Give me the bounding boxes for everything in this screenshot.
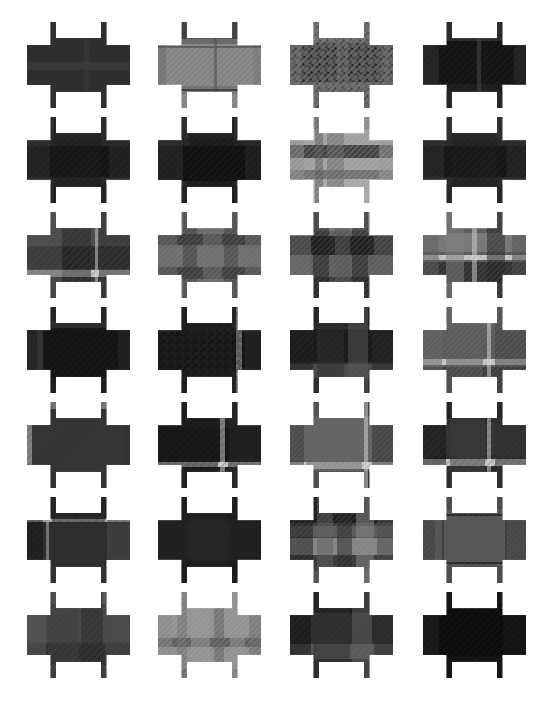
puzzle-tile (27, 307, 130, 393)
puzzle-tile (27, 402, 130, 488)
puzzle-tile (27, 117, 130, 203)
puzzle-tile (423, 402, 526, 488)
puzzle-tile (290, 22, 393, 108)
puzzle-tile (158, 22, 261, 108)
puzzle-tile (423, 307, 526, 393)
puzzle-tile (423, 497, 526, 583)
puzzle-tile (158, 212, 261, 298)
puzzle-tile (158, 402, 261, 488)
puzzle-tile (27, 497, 130, 583)
puzzle-tile (27, 592, 130, 678)
puzzle-tile (290, 307, 393, 393)
puzzle-tile (290, 402, 393, 488)
puzzle-tile (158, 497, 261, 583)
puzzle-tile (290, 592, 393, 678)
puzzle-tile (158, 592, 261, 678)
puzzle-tile (27, 212, 130, 298)
puzzle-tile (158, 117, 261, 203)
puzzle-tile (158, 307, 261, 393)
puzzle-tile (423, 592, 526, 678)
puzzle-tile (423, 212, 526, 298)
puzzle-tile (423, 22, 526, 108)
tile-grid-canvas (0, 0, 544, 712)
puzzle-tile (290, 497, 393, 583)
puzzle-tile (290, 212, 393, 298)
puzzle-tile (290, 117, 393, 203)
puzzle-tile (423, 117, 526, 203)
puzzle-tile (27, 22, 130, 108)
